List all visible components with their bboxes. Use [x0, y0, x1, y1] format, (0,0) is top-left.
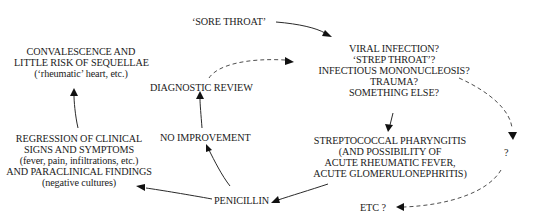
node-regression: REGRESSION OF CLINICAL SIGNS AND SYMPTOM…	[4, 133, 154, 188]
arrowhead-icon	[285, 57, 294, 65]
arrowhead-icon	[508, 132, 517, 140]
edge-penicillin-to-no-improvement	[209, 150, 230, 186]
arrowhead-icon	[385, 124, 393, 132]
node-etc: ETC ?	[360, 202, 386, 213]
edge-penicillin-to-regression	[146, 188, 212, 199]
arrowhead-icon	[396, 203, 404, 211]
node-diagnostic-review: DIAGNOSTIC REVIEW	[150, 82, 253, 93]
node-question: ?	[504, 147, 508, 158]
arrowhead-icon	[206, 144, 212, 152]
edge-regression-to-convalescence	[74, 96, 78, 128]
node-penicillin: PENICILLIN	[214, 195, 269, 206]
diagram-arrows	[0, 0, 535, 223]
edge-diagnostic-review-to-differential	[209, 60, 285, 78]
edge-strep-to-penicillin	[278, 184, 328, 200]
arrowhead-icon	[70, 88, 78, 96]
node-sore-throat: ‘SORE THROAT’	[192, 16, 266, 27]
edge-differential-to-strep	[390, 113, 393, 125]
node-no-improvement: NO IMPROVEMENT	[160, 132, 251, 143]
node-streptococcal-pharyngitis: STREPTOCOCCAL PHARYNGITIS (AND POSSIBILI…	[310, 135, 470, 179]
node-convalescence: CONVALESCENCE AND LITTLE RISK OF SEQUELL…	[14, 46, 148, 79]
arrowhead-icon	[271, 196, 280, 203]
edge-no-improvement-to-diagnostic-review	[200, 99, 202, 128]
arrowhead-icon	[322, 30, 332, 37]
edge-sore-throat-to-differential	[276, 22, 325, 33]
node-differential-diagnosis: VIRAL INFECTION? ‘STREP THROAT’? INFECTI…	[300, 43, 488, 98]
